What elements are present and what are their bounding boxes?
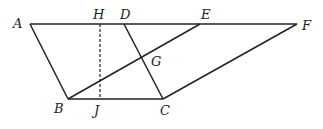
label-G: G [151,54,161,69]
diagram-canvas: A H D E F B J C G [0,0,323,129]
label-H: H [92,7,105,22]
label-C: C [160,103,170,118]
label-J: J [91,103,100,118]
label-E: E [200,7,211,22]
label-B: B [53,101,64,116]
geometry-diagram: A H D E F B J C G [0,0,323,129]
segment-CF [163,24,297,99]
segment-BE [68,24,200,99]
label-F: F [301,18,312,33]
label-D: D [119,7,131,22]
label-A: A [12,16,22,31]
segment-AB [30,24,68,99]
